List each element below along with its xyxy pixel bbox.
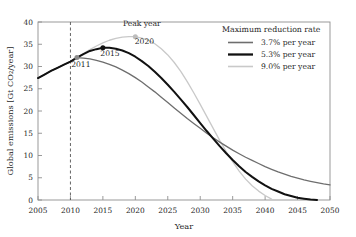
x-tick-label: 2030 [191, 206, 210, 215]
y-tick-label: 5 [28, 173, 33, 182]
y-axis-title: Global emissions [Gt CO₂/year] [5, 47, 15, 176]
y-tick-label: 25 [24, 84, 34, 93]
legend-label-0: 3.7% per year [261, 38, 315, 47]
x-tick-label: 2010 [61, 206, 80, 215]
x-tick-label: 2035 [223, 206, 242, 215]
emissions-pathway-chart: 2005201020152020202520302035204020452050… [0, 0, 356, 237]
x-tick-label: 2005 [29, 206, 48, 215]
x-tick-label: 2045 [288, 206, 307, 215]
y-tick-label: 20 [24, 107, 34, 116]
legend-label-1: 5.3% per year [261, 50, 315, 59]
annotation-peak-year: Peak year [123, 19, 161, 28]
y-tick-label: 15 [24, 129, 34, 138]
x-tick-label: 2015 [93, 206, 112, 215]
chart-canvas: 2005201020152020202520302035204020452050… [0, 0, 356, 237]
plot-frame [38, 22, 330, 200]
y-tick-label: 0 [28, 196, 33, 205]
x-tick-label: 2020 [126, 206, 145, 215]
x-tick-label: 2040 [256, 206, 275, 215]
annotation-2011: 2011 [71, 60, 90, 69]
annotation-2020: 2020 [135, 37, 154, 46]
legend-label-2: 9.0% per year [261, 62, 315, 71]
y-tick-label: 30 [24, 62, 34, 71]
peak-marker-2011 [74, 55, 79, 60]
x-axis-title: Year [174, 221, 193, 231]
y-tick-label: 35 [24, 40, 34, 49]
y-tick-label: 10 [24, 151, 34, 160]
annotation-2015: 2015 [100, 49, 119, 58]
x-tick-label: 2050 [321, 206, 340, 215]
x-tick-label: 2025 [158, 206, 177, 215]
y-tick-label: 40 [24, 18, 34, 27]
legend-title: Maximum reduction rate [222, 25, 321, 34]
